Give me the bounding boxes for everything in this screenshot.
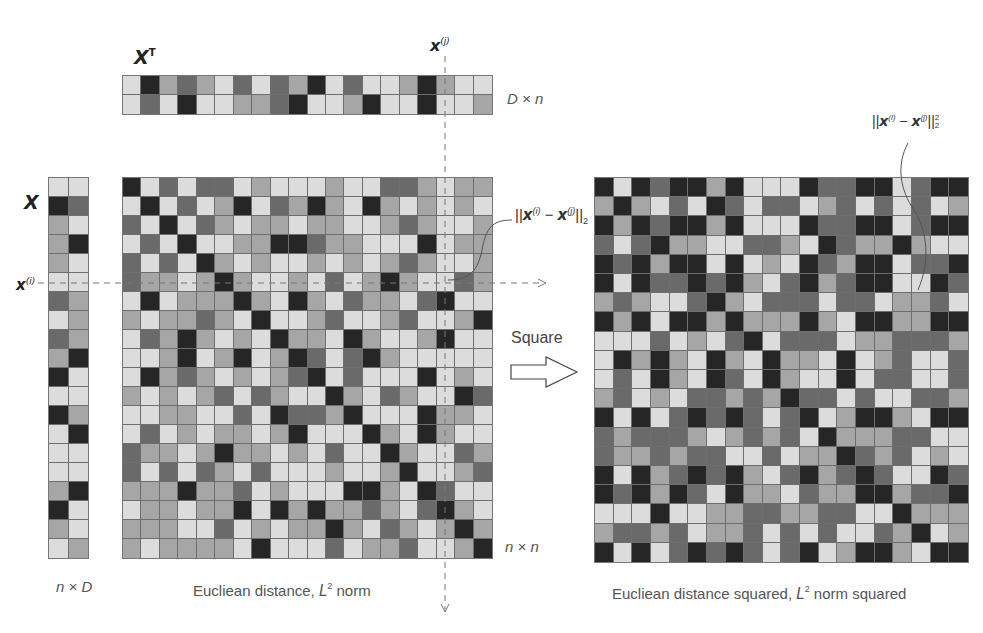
matrix-cell <box>651 543 670 562</box>
matrix-cell <box>474 197 492 216</box>
matrix-cell <box>688 312 707 331</box>
matrix-cell <box>363 95 381 114</box>
matrix-cell <box>819 312 838 331</box>
matrix-cell <box>651 408 670 427</box>
matrix-cell <box>252 349 270 368</box>
matrix-cell <box>837 274 856 293</box>
matrix-cell <box>178 463 196 482</box>
matrix-cell <box>234 178 252 197</box>
matrix-cell <box>474 444 492 463</box>
matrix-cell <box>455 349 473 368</box>
matrix-cell <box>875 216 894 235</box>
matrix-cell <box>252 235 270 254</box>
matrix-cell <box>197 444 215 463</box>
matrix-cell <box>123 406 141 425</box>
xj-sup: (j) <box>440 36 450 46</box>
matrix-cell <box>763 524 782 543</box>
matrix-cell <box>688 485 707 504</box>
matrix-cell <box>400 425 418 444</box>
matrix-cell <box>160 387 178 406</box>
matrix-cell <box>856 197 875 216</box>
matrix-cell <box>744 255 763 274</box>
matrix-cell <box>326 197 344 216</box>
matrix-cell <box>931 178 950 197</box>
matrix-cell <box>670 504 689 523</box>
matrix-cell <box>160 235 178 254</box>
matrix-cell <box>381 292 399 311</box>
matrix-cell <box>344 520 362 539</box>
matrix-cell <box>670 351 689 370</box>
matrix-cell <box>400 463 418 482</box>
matrix-cell <box>400 197 418 216</box>
matrix-cell <box>893 408 912 427</box>
matrix-cell <box>614 351 633 370</box>
matrix-cell <box>160 76 178 95</box>
matrix-cell <box>800 408 819 427</box>
matrix-cell <box>160 501 178 520</box>
matrix-cell <box>949 447 968 466</box>
matrix-cell <box>632 428 651 447</box>
matrix-cell <box>688 543 707 562</box>
matrix-cell <box>726 236 745 255</box>
matrix-cell <box>381 520 399 539</box>
matrix-cell <box>800 447 819 466</box>
matrix-cell <box>763 236 782 255</box>
matrix-cell <box>670 466 689 485</box>
matrix-cell <box>400 444 418 463</box>
matrix-cell <box>197 273 215 292</box>
matrix-cell <box>215 349 233 368</box>
matrix-cell <box>308 292 326 311</box>
matrix-cell <box>215 216 233 235</box>
matrix-cell <box>632 504 651 523</box>
matrix-cell <box>474 482 492 501</box>
matrix-cell <box>400 235 418 254</box>
matrix-cell <box>437 406 455 425</box>
matrix-cell <box>381 76 399 95</box>
matrix-cell <box>595 255 614 274</box>
matrix-cell <box>837 428 856 447</box>
matrix-cell <box>326 482 344 501</box>
matrix-cell <box>123 539 141 558</box>
matrix-cell <box>363 349 381 368</box>
matrix-cell <box>289 273 307 292</box>
matrix-cell <box>289 178 307 197</box>
matrix-cell <box>363 425 381 444</box>
matrix-cell <box>744 447 763 466</box>
matrix-cell <box>123 95 141 114</box>
matrix-cell <box>326 501 344 520</box>
matrix-cell <box>437 235 455 254</box>
matrix-cell <box>819 543 838 562</box>
matrix-cell <box>912 332 931 351</box>
matrix-cell <box>726 408 745 427</box>
matrix-cell <box>763 370 782 389</box>
matrix-cell <box>234 292 252 311</box>
matrix-cell <box>763 447 782 466</box>
matrix-cell <box>344 463 362 482</box>
matrix-cell <box>595 216 614 235</box>
matrix-cell <box>670 447 689 466</box>
matrix-cell <box>744 408 763 427</box>
matrix-cell <box>781 351 800 370</box>
matrix-cell <box>418 330 436 349</box>
matrix-cell <box>819 485 838 504</box>
matrix-cell <box>344 95 362 114</box>
matrix-cell <box>344 292 362 311</box>
matrix-cell <box>455 501 473 520</box>
matrix-cell <box>931 543 950 562</box>
matrix-cell <box>381 482 399 501</box>
matrix-cell <box>744 312 763 331</box>
matrix-cell <box>69 463 89 482</box>
matrix-cell <box>893 332 912 351</box>
matrix-cell <box>781 389 800 408</box>
matrix-cell <box>49 444 69 463</box>
matrix-cell <box>381 197 399 216</box>
matrix-cell <box>271 425 289 444</box>
matrix-cell <box>632 274 651 293</box>
caption-left: Eucliean distance, L2 norm <box>193 581 371 600</box>
matrix-cell <box>763 504 782 523</box>
matrix-cell <box>252 463 270 482</box>
matrix-cell <box>363 501 381 520</box>
matrix-cell <box>837 178 856 197</box>
matrix-cell <box>670 408 689 427</box>
matrix-cell <box>800 255 819 274</box>
